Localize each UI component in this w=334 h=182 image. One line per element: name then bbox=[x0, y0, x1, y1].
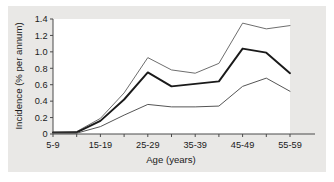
x-tick-label: 5-9 bbox=[46, 140, 59, 150]
chart-figure: 00.20.40.60.81.01.21.4 5-915-1925-2935-3… bbox=[0, 0, 334, 182]
x-axis-title: Age (years) bbox=[146, 154, 196, 165]
x-tick-label: 55-59 bbox=[278, 140, 302, 150]
plot-area bbox=[53, 19, 290, 134]
y-tick-label: 0.8 bbox=[35, 64, 48, 74]
y-axis-title: Incidence (% per annum) bbox=[13, 22, 24, 129]
y-tick-label: 1.2 bbox=[35, 31, 48, 41]
y-axis: 00.20.40.60.81.01.21.4 bbox=[35, 14, 53, 139]
y-tick-label: 0.4 bbox=[35, 96, 48, 106]
x-tick-label: 45-49 bbox=[231, 140, 255, 150]
x-axis: 5-915-1925-2935-3945-4955-59 bbox=[46, 134, 315, 150]
line-chart: 00.20.40.60.81.01.21.4 5-915-1925-2935-3… bbox=[0, 0, 334, 182]
y-tick-label: 0.6 bbox=[35, 80, 48, 90]
y-tick-label: 0.2 bbox=[35, 113, 48, 123]
x-tick-label: 15-19 bbox=[89, 140, 113, 150]
y-tick-label: 1.4 bbox=[35, 14, 48, 24]
y-tick-label: 0 bbox=[42, 129, 47, 139]
x-tick-label: 25-29 bbox=[136, 140, 160, 150]
x-tick-label: 35-39 bbox=[183, 140, 207, 150]
y-tick-label: 1.0 bbox=[35, 47, 48, 57]
